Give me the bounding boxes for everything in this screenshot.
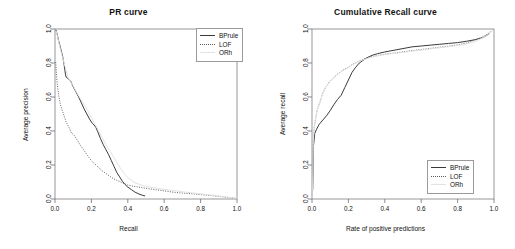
x-axis-label-cr: Rate of positive predictions bbox=[257, 225, 514, 232]
legend-label: ORh bbox=[219, 49, 232, 58]
x-tick-label: 0.2 bbox=[87, 205, 96, 212]
legend-item: LOF bbox=[200, 41, 238, 50]
x-axis-label-pr: Recall bbox=[0, 225, 257, 232]
legend-key-icon bbox=[200, 35, 215, 37]
y-tick-label: 0.0 bbox=[303, 194, 310, 203]
legend-label: LOF bbox=[219, 41, 231, 50]
series-line-bprule bbox=[56, 30, 145, 196]
y-axis-label-pr: Average precision bbox=[22, 88, 29, 141]
x-tick-label: 0.8 bbox=[453, 205, 462, 212]
legend-key-icon bbox=[200, 52, 215, 54]
x-tick-label: 0.4 bbox=[380, 205, 389, 212]
y-tick-label: 0.8 bbox=[303, 58, 310, 67]
y-tick-label: 0.4 bbox=[46, 126, 53, 135]
legend-key-icon bbox=[431, 176, 446, 178]
x-tick-label: 0.6 bbox=[160, 205, 169, 212]
x-tick-label: 1.0 bbox=[490, 205, 499, 212]
legend-label: BPrule bbox=[450, 164, 469, 173]
y-tick-label: 0.2 bbox=[303, 160, 310, 169]
x-tick-label: 0.6 bbox=[417, 205, 426, 212]
y-tick-label: 0.2 bbox=[46, 160, 53, 169]
y-tick-label: 0.4 bbox=[303, 126, 310, 135]
y-tick-label: 0.6 bbox=[46, 92, 53, 101]
panel-pr-curve: PR curve Average precision Recall BPrule… bbox=[0, 0, 257, 249]
legend-item: ORh bbox=[200, 49, 238, 58]
series-line-lof bbox=[56, 62, 237, 198]
legend-label: BPrule bbox=[219, 32, 238, 41]
legend-item: BPrule bbox=[431, 164, 469, 173]
figure-container: PR curve Average precision Recall BPrule… bbox=[0, 0, 515, 249]
legend-label: LOF bbox=[450, 173, 462, 182]
legend-key-icon bbox=[200, 44, 215, 46]
legend-key-icon bbox=[431, 184, 446, 186]
x-tick-label: 0.2 bbox=[344, 205, 353, 212]
legend-cr: BPruleLOFORh bbox=[427, 160, 474, 194]
y-tick-label: 1.0 bbox=[46, 24, 53, 33]
x-tick-label: 0.8 bbox=[196, 205, 205, 212]
y-tick-label: 0.0 bbox=[46, 194, 53, 203]
x-tick-label: 0.0 bbox=[51, 205, 60, 212]
y-tick-label: 0.6 bbox=[303, 92, 310, 101]
legend-item: LOF bbox=[431, 173, 469, 182]
y-axis-label-cr: Average recall bbox=[279, 93, 286, 135]
panel-cumulative-recall: Cumulative Recall curve Average recall R… bbox=[257, 0, 514, 249]
legend-key-icon bbox=[431, 167, 446, 169]
legend-item: BPrule bbox=[200, 32, 238, 41]
x-tick-label: 0.0 bbox=[308, 205, 317, 212]
legend-label: ORh bbox=[450, 181, 463, 190]
y-tick-label: 1.0 bbox=[303, 24, 310, 33]
x-tick-label: 0.4 bbox=[123, 205, 132, 212]
y-tick-label: 0.8 bbox=[46, 58, 53, 67]
legend-pr: BPruleLOFORh bbox=[196, 28, 243, 62]
x-tick-label: 1.0 bbox=[233, 205, 242, 212]
legend-item: ORh bbox=[431, 181, 469, 190]
